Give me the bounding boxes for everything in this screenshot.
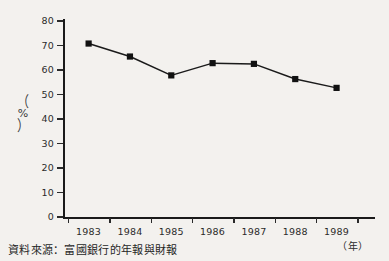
series-markers xyxy=(86,40,340,91)
data-point-marker xyxy=(251,61,257,67)
data-point-marker xyxy=(209,60,215,66)
chart-figure: （ % ） 01020304050607080 1983198419851986… xyxy=(0,0,389,261)
data-point-marker xyxy=(292,76,298,82)
data-point-marker xyxy=(333,85,339,91)
data-point-marker xyxy=(86,40,92,46)
data-series xyxy=(0,0,389,261)
source-note: 資料來源：富國銀行的年報與財報 xyxy=(8,241,178,257)
data-point-marker xyxy=(127,53,133,59)
data-point-marker xyxy=(168,72,174,78)
